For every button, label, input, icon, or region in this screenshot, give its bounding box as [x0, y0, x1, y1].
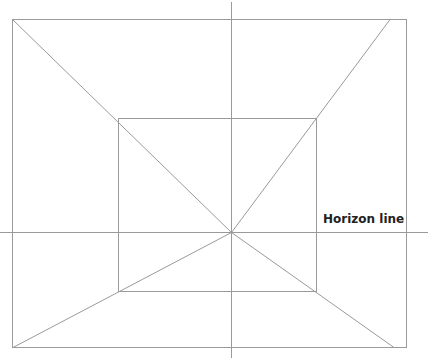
perspective-diagram — [0, 0, 438, 360]
horizon-line-label: Horizon line — [323, 212, 404, 226]
orthogonal-bottom-right — [232, 233, 395, 348]
outer-rectangle — [13, 20, 407, 348]
orthogonal-top-left — [13, 20, 232, 233]
inner-rectangle — [119, 119, 317, 292]
orthogonal-top-right — [232, 20, 391, 233]
orthogonal-bottom-left — [13, 233, 232, 348]
